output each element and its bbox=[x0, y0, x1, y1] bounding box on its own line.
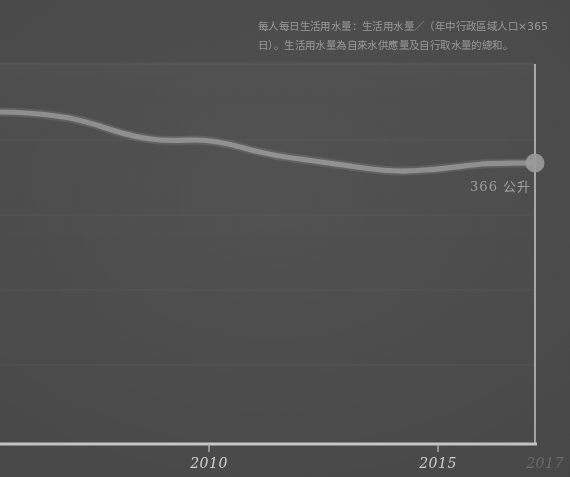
methodology-annotation: 每人每日生活用水量：生活用水量／（年中行政區域人口×365日）。生活用水量為自來… bbox=[258, 17, 550, 55]
x-tick-label-2015: 2015 bbox=[419, 455, 457, 471]
data-line bbox=[0, 112, 535, 171]
end-point-marker[interactable] bbox=[526, 154, 545, 173]
gridlines bbox=[0, 140, 535, 365]
line-chart-plot bbox=[0, 0, 570, 477]
end-point-value-label: 366 公升 bbox=[470, 176, 532, 195]
x-tick-label-2017: 2017 bbox=[526, 455, 564, 471]
x-tick-label-2010: 2010 bbox=[190, 455, 228, 471]
chart-canvas: 366 公升 2010 2015 2017 每人每日生活用水量：生活用水量／（年… bbox=[0, 0, 570, 477]
